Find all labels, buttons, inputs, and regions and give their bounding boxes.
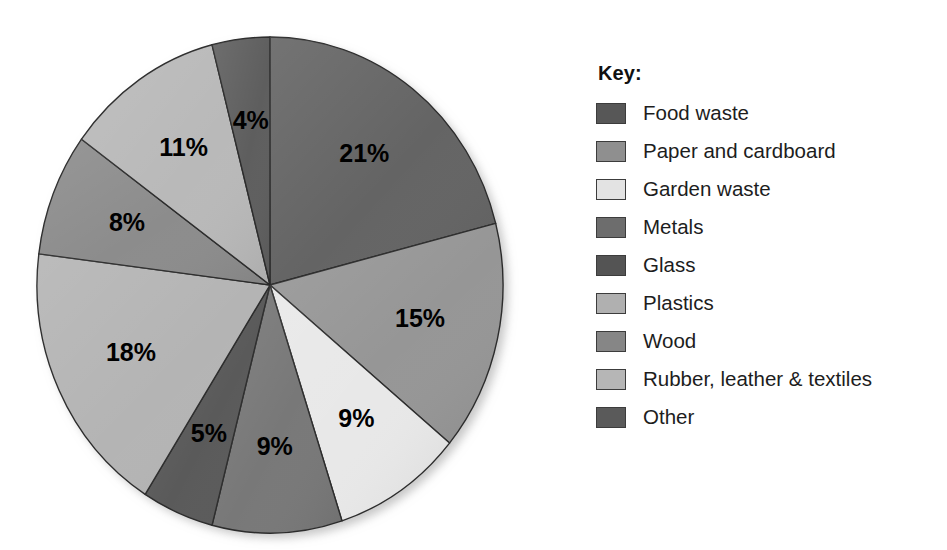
legend-swatch-icon: [596, 331, 626, 352]
legend-item[interactable]: Rubber, leather & textiles: [596, 360, 936, 398]
legend-swatch-icon: [596, 293, 626, 314]
legend-item-label: Rubber, leather & textiles: [643, 369, 872, 390]
legend-swatch-icon: [596, 103, 626, 124]
legend-item[interactable]: Plastics: [596, 284, 936, 322]
legend-item-label: Wood: [643, 331, 696, 352]
pie-slice-label: 11%: [159, 133, 208, 161]
pie-slice-label: 8%: [109, 208, 145, 236]
legend-item-label: Garden waste: [643, 179, 771, 200]
legend-item-label: Glass: [643, 255, 695, 276]
legend-title: Key:: [598, 62, 936, 85]
legend-item[interactable]: Food waste: [596, 94, 936, 132]
legend-item-label: Metals: [643, 217, 703, 238]
legend-item[interactable]: Metals: [596, 208, 936, 246]
pie-slice-label: 9%: [257, 432, 293, 460]
legend-item-label: Plastics: [643, 293, 714, 314]
legend-item[interactable]: Wood: [596, 322, 936, 360]
pie-slice-label: 15%: [395, 304, 445, 332]
legend-swatch-icon: [596, 369, 626, 390]
legend-swatch-icon: [596, 407, 626, 428]
legend-item[interactable]: Paper and cardboard: [596, 132, 936, 170]
legend-swatch-icon: [596, 217, 626, 238]
pie-slice-label: 18%: [106, 338, 156, 366]
pie-chart: 21%15%9%9%5%18%8%11%4%: [0, 0, 570, 550]
legend-items: Food wastePaper and cardboardGarden wast…: [596, 94, 936, 436]
pie-slice-label: 9%: [338, 404, 374, 432]
pie-slice-label: 21%: [339, 139, 389, 167]
legend-item-label: Food waste: [643, 103, 749, 124]
legend-item-label: Paper and cardboard: [643, 141, 836, 162]
legend-swatch-icon: [596, 179, 626, 200]
legend-swatch-icon: [596, 141, 626, 162]
pie-slice-label: 4%: [233, 106, 269, 134]
legend-item[interactable]: Glass: [596, 246, 936, 284]
pie-slice-label: 5%: [191, 419, 227, 447]
legend-item[interactable]: Other: [596, 398, 936, 436]
legend-swatch-icon: [596, 255, 626, 276]
pie-chart-svg: 21%15%9%9%5%18%8%11%4%: [0, 0, 570, 550]
legend-item[interactable]: Garden waste: [596, 170, 936, 208]
legend-item-label: Other: [643, 407, 694, 428]
legend: Key: Food wastePaper and cardboardGarden…: [596, 62, 936, 436]
